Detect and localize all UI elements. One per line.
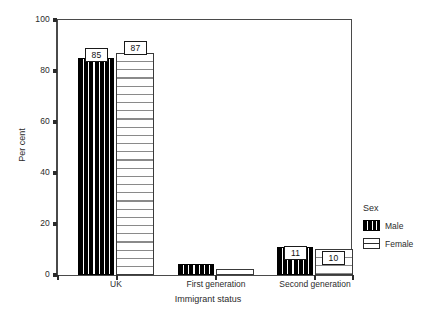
legend-item-female: Female — [363, 238, 437, 249]
legend-swatch-female-icon — [363, 238, 380, 249]
y-tick-label-100: 100 — [0, 14, 50, 24]
y-tick-label-20: 20 — [0, 218, 50, 228]
y-axis-line — [56, 19, 58, 276]
y-tick-mark-100 — [53, 18, 57, 22]
bar-first-generation-female — [216, 269, 254, 275]
bar-label-second-generation-female: 10 — [322, 251, 345, 265]
legend: Sex Male Female — [363, 203, 437, 256]
y-tick-mark-80 — [53, 69, 57, 73]
bar-label-second-generation-male: 11 — [284, 246, 307, 260]
bar-first-generation-male — [178, 264, 214, 275]
x-category-label-uk: UK — [110, 279, 122, 289]
x-axis-title: Immigrant status — [118, 294, 298, 304]
bar-label-uk-male: 85 — [85, 48, 108, 62]
chart-root: 100 80 60 40 20 0 Per cent 85 87 11 10 U… — [0, 0, 437, 318]
legend-title: Sex — [363, 203, 437, 213]
legend-swatch-male-icon — [363, 220, 380, 231]
legend-label-female: Female — [385, 239, 413, 249]
x-category-label-first-generation: First generation — [186, 279, 245, 289]
bar-label-uk-female: 87 — [124, 41, 147, 55]
bar-uk-male — [78, 58, 114, 275]
y-tick-label-0: 0 — [0, 269, 50, 279]
y-tick-mark-20 — [53, 222, 57, 226]
bar-uk-female — [116, 53, 154, 275]
x-tick-mark-left — [57, 275, 59, 280]
y-tick-label-80: 80 — [0, 65, 50, 75]
x-tick-mark-right — [352, 275, 354, 280]
legend-item-male: Male — [363, 220, 437, 231]
y-tick-mark-60 — [53, 120, 57, 124]
y-axis-title: Per cent — [17, 110, 27, 180]
y-tick-mark-40 — [53, 171, 57, 175]
legend-label-male: Male — [385, 221, 403, 231]
x-category-label-second-generation: Second generation — [279, 279, 350, 289]
